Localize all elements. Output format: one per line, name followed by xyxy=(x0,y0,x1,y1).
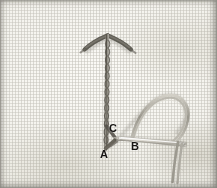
label-a: A xyxy=(100,149,108,160)
label-c: C xyxy=(109,123,117,134)
thread-tails xyxy=(171,142,184,183)
stitch-illustration xyxy=(0,0,217,188)
stitch-photograph: A B C xyxy=(0,0,217,188)
label-b: B xyxy=(131,141,139,152)
